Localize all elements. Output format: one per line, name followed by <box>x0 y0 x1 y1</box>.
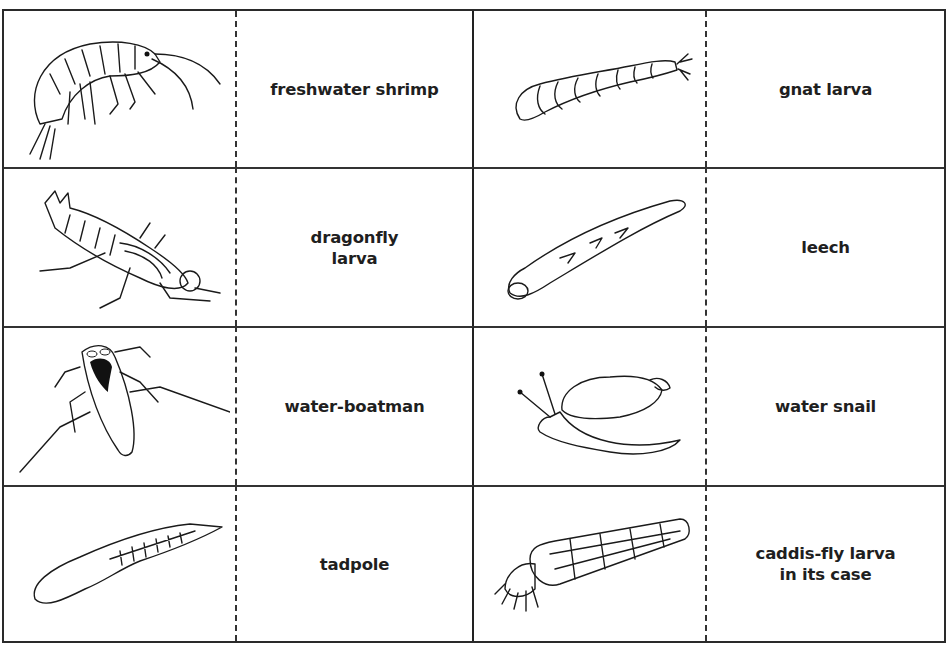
card-label: freshwater shrimp <box>270 79 438 100</box>
leech-icon <box>480 173 700 323</box>
card-label: water snail <box>775 396 876 417</box>
card-grid: freshwater shrimp gnat larva dragonfly l… <box>4 11 944 641</box>
card-sheet: freshwater shrimp gnat larva dragonfly l… <box>2 9 946 643</box>
label-card-water-snail[interactable]: water snail <box>707 326 944 485</box>
picture-card-caddis-fly-larva[interactable] <box>474 485 707 641</box>
label-card-freshwater-shrimp[interactable]: freshwater shrimp <box>237 11 474 167</box>
picture-card-water-boatman[interactable] <box>4 326 237 485</box>
label-card-water-boatman[interactable]: water-boatman <box>237 326 474 485</box>
picture-card-gnat-larva[interactable] <box>474 11 707 167</box>
water-snail-icon <box>480 332 700 482</box>
card-label: dragonfly larva <box>311 227 399 269</box>
picture-card-leech[interactable] <box>474 167 707 326</box>
caddis-fly-larva-icon <box>480 489 700 639</box>
label-card-tadpole[interactable]: tadpole <box>237 485 474 641</box>
water-boatman-icon <box>10 332 230 482</box>
picture-card-freshwater-shrimp[interactable] <box>4 11 237 167</box>
card-label: gnat larva <box>779 79 872 100</box>
gnat-larva-icon <box>480 14 700 164</box>
picture-card-dragonfly-larva[interactable] <box>4 167 237 326</box>
card-label: caddis-fly larva in its case <box>756 543 896 585</box>
card-label: leech <box>801 237 850 258</box>
label-card-caddis-fly-larva[interactable]: caddis-fly larva in its case <box>707 485 944 641</box>
card-label: tadpole <box>320 554 389 575</box>
label-card-gnat-larva[interactable]: gnat larva <box>707 11 944 167</box>
label-card-leech[interactable]: leech <box>707 167 944 326</box>
dragonfly-larva-icon <box>10 173 230 323</box>
picture-card-tadpole[interactable] <box>4 485 237 641</box>
label-card-dragonfly-larva[interactable]: dragonfly larva <box>237 167 474 326</box>
picture-card-water-snail[interactable] <box>474 326 707 485</box>
card-label: water-boatman <box>284 396 424 417</box>
tadpole-icon <box>10 489 230 639</box>
freshwater-shrimp-icon <box>10 14 230 164</box>
